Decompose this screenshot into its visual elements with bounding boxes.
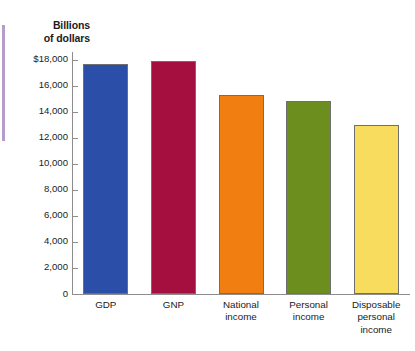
x-axis-label-line: Disposable	[342, 299, 410, 311]
plot-area	[72, 52, 410, 294]
y-axis-title-line-1: Billions	[12, 19, 90, 32]
x-axis-label-disposable-personal-income: Disposablepersonalincome	[342, 299, 410, 336]
bar-gdp	[83, 64, 128, 294]
x-axis-label-personal-income: Personalincome	[275, 299, 343, 324]
y-axis-tick-label: $18,000	[0, 53, 68, 65]
y-axis-tick-label: 6,000	[0, 209, 68, 221]
bar-disposable-personal-income	[354, 125, 399, 294]
x-axis-label-line: GNP	[140, 299, 208, 311]
x-axis-label-gdp: GDP	[72, 299, 140, 311]
y-axis-tick-label: 14,000	[0, 105, 68, 117]
x-axis-label-line: National	[207, 299, 275, 311]
y-axis-title: Billions of dollars	[12, 19, 90, 44]
x-axis-label-line: income	[207, 311, 275, 323]
bar-personal-income	[286, 101, 331, 294]
y-axis-title-line-2: of dollars	[12, 32, 90, 45]
y-axis-tick-label: 2,000	[0, 261, 68, 273]
x-axis-label-line: personal	[342, 311, 410, 323]
y-axis-tick-label: 16,000	[0, 79, 68, 91]
y-axis-tick-mark	[73, 294, 78, 295]
bar-gnp	[151, 61, 196, 294]
bar-national-income	[219, 95, 264, 294]
y-axis-tick-label: 0	[0, 288, 68, 300]
x-axis-label-line: income	[342, 324, 410, 336]
y-axis-tick-label: 10,000	[0, 157, 68, 169]
x-axis-label-line: Personal	[275, 299, 343, 311]
y-axis-tick-label: 8,000	[0, 183, 68, 195]
bar-chart: Billions of dollars $18,00016,00014,0001…	[0, 0, 415, 351]
x-axis-line	[72, 294, 410, 295]
x-axis-label-national-income: Nationalincome	[207, 299, 275, 324]
x-axis-label-line: income	[275, 311, 343, 323]
y-axis-tick-label: 4,000	[0, 235, 68, 247]
x-axis-label-gnp: GNP	[140, 299, 208, 311]
y-axis-tick-label: 12,000	[0, 131, 68, 143]
x-axis-label-line: GDP	[72, 299, 140, 311]
